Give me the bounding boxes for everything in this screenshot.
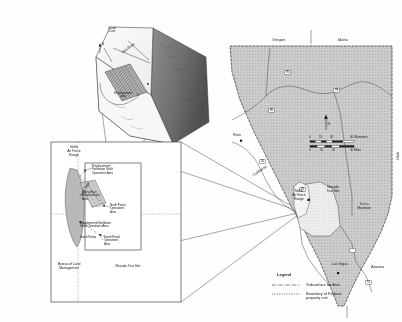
scale-km-unit: 60 Kilometers <box>350 136 368 139</box>
place-label-yucca-mountain: Yucca Mountain <box>352 203 376 211</box>
city-label-las-vegas: Las Vegas <box>330 263 350 267</box>
legend-symbols <box>272 285 300 294</box>
legend-item-subsurface-facilities: Subsurface facilities <box>306 283 340 288</box>
state-label-oregon: Oregon <box>272 38 285 43</box>
highway-shield-80: 80 <box>269 109 275 112</box>
inset-label-blm: Bureau of Land Management <box>52 263 86 271</box>
scale-km-tick-1: 15 <box>319 136 322 139</box>
scale-mi-unit: 40 Miles <box>350 149 361 152</box>
inset-label-south-portal: South Portal Operations Area <box>104 236 120 246</box>
inset-label-decon-shaft: Development/Ventilation Shaft Operations… <box>80 222 111 229</box>
city-label-reno: Reno <box>233 134 241 138</box>
scale-mi-tick-1: 10 <box>320 149 323 152</box>
inset-label-emplacement-shaft: Emplacement/ Ventilation Shaft Operation… <box>92 165 113 175</box>
place-label-nellis: Nellis Air Force Range <box>288 190 310 202</box>
highway-shield-50: 50 <box>260 160 266 163</box>
place-label-nts: Nevada Test Site <box>322 186 344 194</box>
scale-km-tick-0: 0 <box>309 136 311 139</box>
state-label-arizona: Arizona <box>371 265 384 270</box>
inset-label-nellis: Nellis Air Force Range <box>60 146 88 158</box>
block-north-label: N <box>102 43 104 46</box>
state-label-idaho: Idaho <box>338 38 348 43</box>
inset-label-south-ramp: South Ramp <box>80 236 96 239</box>
map-north-label: N <box>328 123 330 127</box>
highway-shield-95-south: 95 <box>300 188 306 191</box>
block-label-canal-crest: Canal Crest <box>108 27 116 34</box>
inset-label-nevada-test-site: Nevada Test Site <box>102 265 154 269</box>
highway-shield-15: 15 <box>366 281 372 284</box>
state-label-utah: Utah <box>396 152 401 160</box>
legend-title: Legend <box>277 273 291 278</box>
site-inset-frame <box>51 142 181 302</box>
scale-km-tick-2: 30 <box>330 136 333 139</box>
highway-shield-93: 93 <box>334 89 340 92</box>
highway-shield-95-north: 95 <box>285 71 291 74</box>
figure-root: Canal Crest Main Ramp Emplacement area N… <box>0 0 402 322</box>
legend-item-federal-boundary: Boundary of Federal property unit <box>306 292 341 301</box>
scale-mi-tick-2: 20 <box>332 149 335 152</box>
inset-label-north-portal: North Portal Operations Area <box>110 204 125 214</box>
scale-mi-tick-0: 0 <box>309 149 311 152</box>
block-label-emplacement-area: Emplacement area <box>114 92 132 99</box>
block-diagram-3d <box>96 27 209 144</box>
figure-canvas <box>0 0 402 322</box>
